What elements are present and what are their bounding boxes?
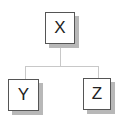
node-x-label: X [54, 18, 65, 38]
node-z-label: Z [92, 84, 102, 104]
connector-to-y [25, 66, 26, 79]
connector-to-z [98, 66, 99, 78]
connector-root-stem [60, 46, 61, 67]
node-x: X [45, 12, 75, 44]
node-z: Z [83, 78, 111, 110]
node-y-label: Y [18, 85, 29, 105]
connector-horizontal-bar [25, 66, 99, 67]
node-y: Y [8, 79, 39, 111]
